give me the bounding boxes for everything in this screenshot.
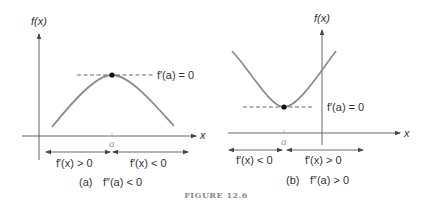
panel-caption-tag: (a) — [79, 176, 92, 188]
tangent-label: f′(a) = 0 — [157, 69, 194, 81]
curve-concave-down — [52, 75, 174, 127]
panel-caption-tag: (b) — [286, 174, 299, 186]
tangent-label: f′(a) = 0 — [327, 101, 364, 113]
curve-concave-up — [232, 51, 336, 107]
point-label-a: a — [281, 135, 287, 147]
right-interval-label: f′(x) > 0 — [305, 154, 342, 166]
left-interval-label: f′(x) > 0 — [56, 157, 93, 169]
right-interval-label: f′(x) < 0 — [130, 157, 167, 169]
x-axis-label: x — [403, 127, 410, 139]
y-axis-label: f(x) — [314, 12, 330, 24]
panel-b: f(x) x a f′(a) = 0 f′(x) < 0 f′(x) > 0 (… — [228, 12, 410, 186]
figure-12-6: f(x) x a f′(a) = 0 f′(x) > 0 f′(x) < 0 (… — [0, 0, 432, 210]
panel-a: f(x) x a f′(a) = 0 f′(x) > 0 f′(x) < 0 (… — [22, 15, 206, 188]
left-interval-label: f′(x) < 0 — [236, 154, 273, 166]
max-point — [109, 72, 114, 77]
y-axis-label: f(x) — [31, 15, 47, 27]
x-axis-label: x — [199, 129, 206, 141]
panel-caption-condition: f″(a) > 0 — [310, 174, 349, 186]
point-label-a: a — [109, 137, 115, 149]
panel-caption-condition: f″(a) < 0 — [103, 176, 142, 188]
min-point — [281, 104, 286, 109]
figure-caption: FIGURE 12.6 — [184, 190, 248, 200]
